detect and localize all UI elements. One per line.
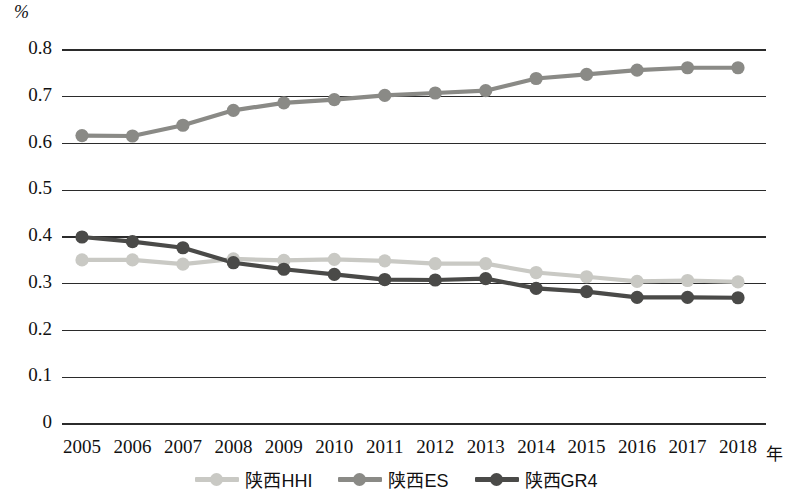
data-point-marker xyxy=(681,291,694,304)
data-point-marker xyxy=(176,258,189,271)
legend-label: 陕西GR4 xyxy=(525,466,598,492)
data-point-marker xyxy=(630,64,643,77)
x-axis-tick-label: 2010 xyxy=(309,436,359,458)
data-point-marker xyxy=(75,129,88,142)
data-point-marker xyxy=(277,96,290,109)
data-point-marker xyxy=(630,275,643,288)
data-point-marker xyxy=(530,72,543,85)
x-axis-tick-label: 2012 xyxy=(410,436,460,458)
x-axis-tick-label: 2013 xyxy=(461,436,511,458)
legend-swatch-icon xyxy=(475,471,519,487)
x-axis-tick-label: 2007 xyxy=(158,436,208,458)
data-point-marker xyxy=(580,68,593,81)
data-point-marker xyxy=(126,129,139,142)
plot-area xyxy=(0,0,793,496)
x-axis-tick-label: 2005 xyxy=(57,436,107,458)
legend-item[interactable]: 陕西HHI xyxy=(195,466,312,492)
data-point-marker xyxy=(429,257,442,270)
data-point-marker xyxy=(731,61,744,74)
data-point-marker xyxy=(126,235,139,248)
chart-legend: 陕西HHI陕西ES陕西GR4 xyxy=(0,462,793,496)
x-axis-tick-label: 2009 xyxy=(259,436,309,458)
x-axis-tick-label: 2018 xyxy=(713,436,763,458)
data-point-marker xyxy=(530,266,543,279)
legend-label: 陕西HHI xyxy=(245,466,312,492)
data-point-marker xyxy=(731,275,744,288)
data-point-marker xyxy=(681,61,694,74)
data-point-marker xyxy=(378,89,391,102)
data-point-marker xyxy=(580,285,593,298)
legend-label: 陕西ES xyxy=(388,466,448,492)
data-point-marker xyxy=(378,273,391,286)
x-axis-tick-label: 2008 xyxy=(208,436,258,458)
x-axis-tick-label: 2006 xyxy=(107,436,157,458)
data-point-marker xyxy=(479,272,492,285)
data-point-marker xyxy=(429,273,442,286)
data-point-marker xyxy=(176,241,189,254)
data-point-marker xyxy=(227,256,240,269)
x-axis-tick-label: 2015 xyxy=(562,436,612,458)
legend-swatch-icon xyxy=(195,471,239,487)
data-point-marker xyxy=(227,104,240,117)
legend-swatch-icon xyxy=(338,471,382,487)
data-point-marker xyxy=(630,291,643,304)
data-point-marker xyxy=(277,263,290,276)
data-point-marker xyxy=(731,291,744,304)
data-point-marker xyxy=(580,270,593,283)
data-point-marker xyxy=(479,84,492,97)
data-point-marker xyxy=(75,230,88,243)
data-point-marker xyxy=(530,282,543,295)
legend-item[interactable]: 陕西GR4 xyxy=(475,466,598,492)
data-point-marker xyxy=(328,93,341,106)
legend-item[interactable]: 陕西ES xyxy=(338,466,448,492)
data-point-marker xyxy=(378,254,391,267)
data-point-marker xyxy=(429,86,442,99)
x-axis-tick-label: 2017 xyxy=(663,436,713,458)
chart-container: % 00.10.20.30.40.50.60.70.8 200520062007… xyxy=(0,0,793,496)
data-point-marker xyxy=(176,119,189,132)
x-axis-tick-label: 2011 xyxy=(360,436,410,458)
x-axis-tick-label: 2014 xyxy=(511,436,561,458)
data-point-marker xyxy=(328,253,341,266)
data-point-marker xyxy=(75,253,88,266)
data-point-marker xyxy=(328,268,341,281)
data-point-marker xyxy=(681,274,694,287)
data-point-marker xyxy=(126,253,139,266)
x-axis-tick-label: 2016 xyxy=(612,436,662,458)
data-point-marker xyxy=(479,257,492,270)
